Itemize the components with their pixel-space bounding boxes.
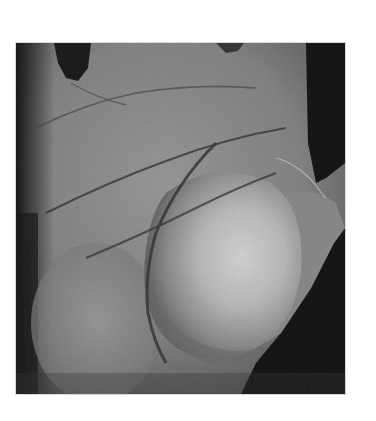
- background-shadow-right: [306, 43, 345, 183]
- palm-image: [16, 43, 345, 394]
- palm-photograph: [16, 43, 345, 394]
- page: [0, 0, 376, 421]
